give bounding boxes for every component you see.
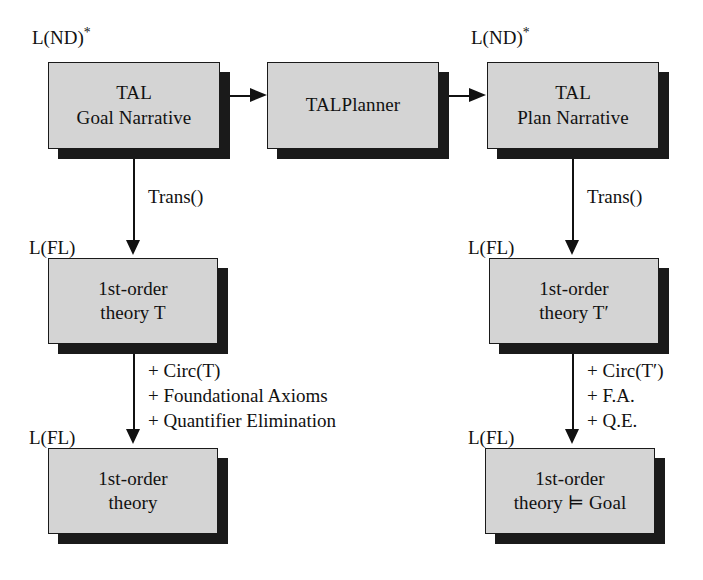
node-first-order-theory-t: 1st-order theory T <box>48 258 218 344</box>
language-label-theory: L(FL) <box>29 427 75 449</box>
connector-goal-to-theory-t <box>133 159 135 243</box>
node-line-1: TAL <box>555 81 591 105</box>
arrowhead-theory-t-to-theory <box>126 429 140 444</box>
node-line-2: theory <box>108 491 157 515</box>
node-line-2: theory T′ <box>539 301 609 325</box>
language-label-theory-t: L(FL) <box>29 237 75 259</box>
diagram-canvas: L(ND)* TAL Goal Narrative TALPlanner L(N… <box>0 0 703 580</box>
node-first-order-theory-goal: 1st-order theory ⊨ Goal <box>485 448 655 534</box>
node-line-1: 1st-order <box>98 467 168 491</box>
node-line-1: 1st-order <box>539 277 609 301</box>
node-talplanner: TALPlanner <box>267 62 439 149</box>
node-tal-plan-narrative: TAL Plan Narrative <box>487 62 659 149</box>
node-line-1: TALPlanner <box>306 93 400 117</box>
edge-label-circ-right: + Circ(T′) + F.A. + Q.E. <box>587 358 664 433</box>
language-label-plan-narrative: L(ND)* <box>471 27 530 49</box>
node-line-2: Plan Narrative <box>517 106 629 130</box>
node-first-order-theory-t-prime: 1st-order theory T′ <box>489 258 659 344</box>
node-line-1: 1st-order <box>535 467 605 491</box>
connector-theory-t-prime-to-theory-goal <box>572 354 574 432</box>
node-line-2: Goal Narrative <box>77 106 192 130</box>
language-label-theory-goal: L(FL) <box>468 427 514 449</box>
connector-plan-to-theory-t-prime <box>572 159 574 243</box>
node-line-1: 1st-order <box>98 277 168 301</box>
arrowhead-goal-to-theory-t <box>126 240 140 255</box>
node-first-order-theory: 1st-order theory <box>48 448 218 534</box>
arrowhead-planner-to-plan-narrative <box>469 88 486 102</box>
arrowhead-theory-t-prime-to-theory-goal <box>565 429 579 444</box>
node-tal-goal-narrative: TAL Goal Narrative <box>48 62 220 149</box>
node-line-2: theory T <box>100 301 165 325</box>
node-line-2: theory ⊨ Goal <box>514 491 627 515</box>
arrowhead-plan-to-theory-t-prime <box>565 240 579 255</box>
arrowhead-goal-to-planner <box>250 88 267 102</box>
connector-theory-t-to-theory <box>133 354 135 432</box>
edge-label-circ-left: + Circ(T) + Foundational Axioms + Quanti… <box>148 358 336 433</box>
language-label-theory-t-prime: L(FL) <box>468 237 514 259</box>
edge-label-trans-left: Trans() <box>148 184 203 209</box>
language-label-goal-narrative: L(ND)* <box>32 27 91 49</box>
node-line-1: TAL <box>116 81 152 105</box>
edge-label-trans-right: Trans() <box>587 184 642 209</box>
